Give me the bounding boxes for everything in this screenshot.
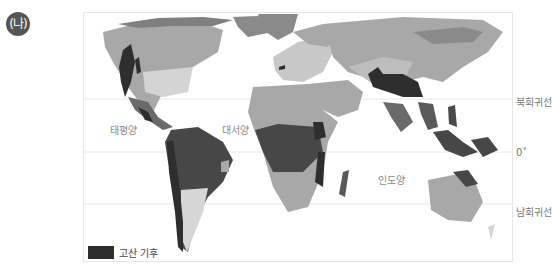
panel-label-badge: (나): [6, 12, 30, 36]
tropic-of-capricorn-label: 남회귀선: [516, 204, 552, 219]
equator-label: 0˚: [516, 147, 527, 158]
map-legend: 고산 기후: [88, 245, 158, 260]
legend-label-alpine: 고산 기후: [119, 245, 158, 260]
ocean-label-atlantic: 대서양: [222, 122, 249, 137]
legend-swatch-alpine: [88, 246, 114, 259]
ocean-label-pacific: 태평양: [110, 122, 137, 137]
ocean-label-indian: 인도양: [378, 172, 405, 187]
tropic-of-cancer-label: 북회귀선: [516, 94, 552, 109]
world-map: [83, 12, 513, 262]
